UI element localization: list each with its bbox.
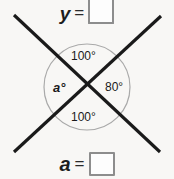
answer-box-a[interactable] <box>89 152 115 176</box>
answer-box-y[interactable] <box>88 0 114 24</box>
equation-variable-y: y <box>60 4 71 23</box>
angle-label-bottom: 100° <box>71 111 96 123</box>
angle-label-top: 100° <box>71 50 96 62</box>
equals-sign-a: = <box>75 155 85 173</box>
equation-row-y: y = <box>0 0 174 26</box>
equation-row-a: a = <box>0 150 174 178</box>
equals-sign-y: = <box>74 4 84 22</box>
equation-variable-a: a <box>59 154 70 174</box>
angle-label-right: 80° <box>105 81 123 93</box>
angle-label-left: a° <box>53 81 65 94</box>
vertical-angles-worksheet: 100° a° 80° 100° y = a = <box>0 0 174 179</box>
